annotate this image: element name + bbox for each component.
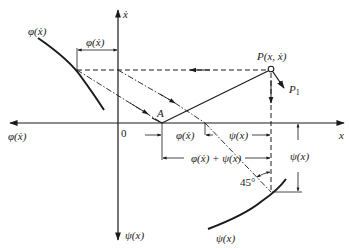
point-a-label: A bbox=[157, 108, 164, 119]
y-axis-down-label: ψ(x) bbox=[125, 230, 144, 241]
dashdot-from-phi-curve bbox=[77, 70, 162, 123]
point-p bbox=[268, 66, 274, 72]
psi-axis-dimension-label: ψ(x) bbox=[229, 130, 248, 141]
dashdot-45-continuation bbox=[175, 103, 205, 123]
phi-curve bbox=[38, 38, 104, 110]
y-axis-up-label: ẋ bbox=[123, 9, 128, 20]
x-axis-right-label: x bbox=[339, 130, 344, 141]
dashdot-arrow-1 bbox=[130, 103, 148, 114]
x-axis-left-label: φ(ẋ) bbox=[8, 131, 26, 142]
phase-plane-diagram bbox=[0, 0, 349, 248]
axes bbox=[10, 10, 344, 240]
psi-vertical-dimension-label: ψ(x) bbox=[290, 151, 309, 162]
line-a-to-p bbox=[162, 71, 268, 123]
psi-curve-label: ψ(x) bbox=[216, 233, 235, 244]
angle-45-label: 45° bbox=[240, 177, 255, 188]
phi-curve-label: φ(ẋ) bbox=[28, 26, 46, 37]
phi-axis-dimension-label: φ(ẋ) bbox=[176, 130, 194, 141]
point-p-label: P(x, ẋ) bbox=[257, 51, 286, 62]
p1-label: P1 bbox=[289, 84, 300, 97]
origin-label: 0 bbox=[121, 128, 127, 139]
phi-top-dimension-label: φ(ẋ) bbox=[86, 37, 104, 48]
sum-dimension-label: φ(ẋ) + ψ(x) bbox=[191, 153, 241, 164]
angle-45-arc bbox=[257, 172, 270, 177]
dashdot-arrow-2 bbox=[160, 94, 175, 103]
p1-arrow bbox=[273, 72, 284, 88]
